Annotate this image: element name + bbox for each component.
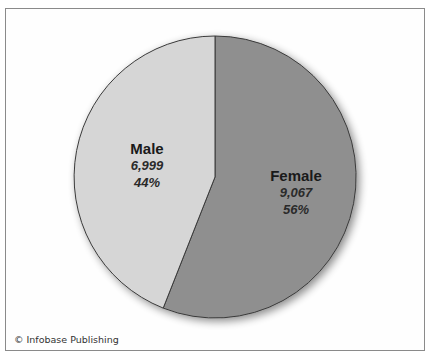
publisher-credit: © Infobase Publishing — [14, 334, 119, 345]
female-label: Female 9,067 56% — [256, 167, 336, 218]
pie-chart — [0, 0, 431, 359]
male-name: Male — [112, 140, 182, 157]
male-percent: 44% — [112, 174, 182, 191]
female-value: 9,067 — [256, 184, 336, 201]
female-percent: 56% — [256, 201, 336, 218]
female-name: Female — [256, 167, 336, 184]
male-value: 6,999 — [112, 157, 182, 174]
male-label: Male 6,999 44% — [112, 140, 182, 191]
